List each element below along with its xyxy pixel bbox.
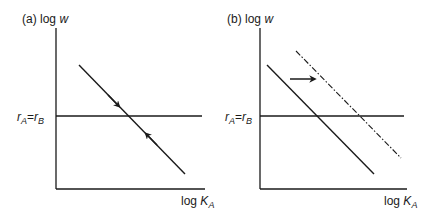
panel-b-solid-diagonal-line — [267, 65, 374, 174]
panel-b-x-label: log KA — [384, 194, 417, 210]
panel-a-diagonal-line — [79, 65, 185, 174]
panel-a: (a) log w rA=rB log KA — [17, 12, 214, 210]
panel-b-threshold-label: rA=rB — [225, 110, 252, 126]
panel-a-threshold-label: rA=rB — [17, 110, 44, 126]
arrow-up-left-icon — [147, 135, 157, 145]
panel-b-title: (b) log w — [227, 12, 274, 26]
arrow-down-right-icon — [108, 95, 118, 105]
panel-a-title: (a) log w — [22, 12, 69, 26]
panel-a-x-label: log KA — [181, 194, 214, 210]
panel-b-shifted-dashdot-line — [296, 51, 401, 158]
diagram-canvas: (a) log w rA=rB log KA (b) log w rA=rB l… — [0, 0, 430, 217]
panel-b: (b) log w rA=rB log KA — [225, 12, 417, 210]
